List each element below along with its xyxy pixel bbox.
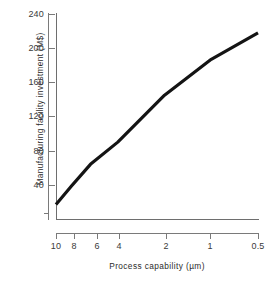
- x-tick-label: 4: [104, 241, 134, 251]
- x-tick-label: 2: [151, 241, 181, 251]
- x-tick-mark: [166, 234, 167, 239]
- x-tick-label: 1: [195, 241, 225, 251]
- x-tick-mark: [56, 234, 57, 239]
- plot-area: [0, 0, 271, 281]
- x-tick-mark: [258, 234, 259, 239]
- x-tick-mark: [74, 234, 75, 239]
- x-tick-mark: [119, 234, 120, 239]
- x-axis-title: Process capability (µm): [56, 261, 258, 271]
- chart-figure: Manufacturing facility investment (M$) 2…: [0, 0, 271, 281]
- x-axis-tick-ruler: [56, 233, 259, 234]
- x-tick-mark: [210, 234, 211, 239]
- data-series-line: [56, 33, 258, 205]
- x-tick-label: 0.5: [243, 241, 271, 251]
- x-tick-mark: [97, 234, 98, 239]
